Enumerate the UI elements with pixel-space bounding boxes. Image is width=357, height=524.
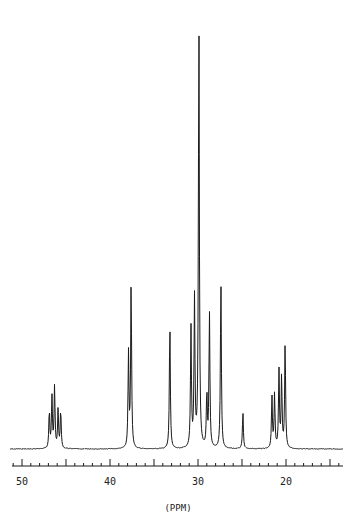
- tick-label-20: 20: [280, 476, 292, 487]
- x-axis-title: (PPM): [164, 503, 191, 513]
- x-axis-ticks: [13, 459, 339, 466]
- tick-label-30: 30: [192, 476, 204, 487]
- nmr-spectrum-plot: [0, 0, 357, 524]
- spectrum-trace: [10, 36, 343, 449]
- tick-label-50: 50: [16, 476, 28, 487]
- tick-label-40: 40: [104, 476, 116, 487]
